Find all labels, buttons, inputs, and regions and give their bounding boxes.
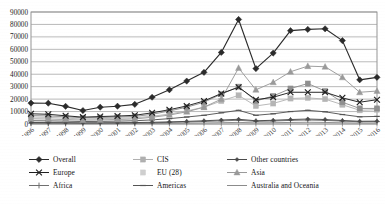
x-axis-tick-label: 1998 <box>55 126 71 136</box>
legend-swatch-dash-icon <box>132 181 154 190</box>
marker-square <box>323 97 328 102</box>
marker-square <box>236 93 241 98</box>
legend-item-eu-28-[interactable]: EU (28) <box>132 168 226 177</box>
y-axis-tick-label: 90000 <box>10 9 28 17</box>
marker-square <box>271 101 276 106</box>
marker-plus <box>36 183 42 189</box>
x-axis-tick-label: 2010 <box>262 126 278 136</box>
y-axis-tick-label: 50000 <box>10 58 28 66</box>
legend-label: Americas <box>157 181 186 190</box>
x-axis-tick-label: 2002 <box>124 126 140 136</box>
legend-item-asia[interactable]: Asia <box>226 168 368 177</box>
x-axis-tick-label: 1999 <box>72 126 88 136</box>
marker-square <box>305 81 310 86</box>
legend-item-cis[interactable]: CIS <box>132 155 226 164</box>
legend-swatch-diamond-icon <box>28 155 50 164</box>
legend-item-americas[interactable]: Americas <box>132 181 226 190</box>
chart-container: 0100002000030000400005000060000700008000… <box>0 0 385 204</box>
marker-square <box>374 106 379 111</box>
x-axis-tick-label: 1997 <box>37 126 53 136</box>
y-axis-tick-label: 20000 <box>10 96 28 104</box>
x-axis-tick-label: 2014 <box>331 126 347 136</box>
legend-swatch-line-only-icon <box>226 181 248 190</box>
x-axis-tick-label: 2016 <box>366 126 382 136</box>
x-axis-tick-label: 2008 <box>228 126 244 136</box>
marker-diamond <box>36 156 42 162</box>
legend-item-other-countries[interactable]: Other countries <box>226 155 368 164</box>
x-axis-tick-label: 2011 <box>280 126 296 136</box>
legend-label: Other countries <box>251 155 298 164</box>
legend-item-australia-and-oceania[interactable]: Australia and Oceania <box>226 181 368 190</box>
x-axis-tick-label: 2013 <box>314 126 330 136</box>
legend-item-africa[interactable]: Africa <box>28 181 132 190</box>
marker-square <box>288 96 293 101</box>
marker-square <box>253 103 258 108</box>
legend-label: Australia and Oceania <box>251 181 319 190</box>
x-axis-tick-label: 2006 <box>193 126 209 136</box>
legend-label: Africa <box>53 181 72 190</box>
x-axis-tick-label: 2001 <box>107 126 123 136</box>
legend-label: EU (28) <box>157 168 182 177</box>
legend-swatch-square-light-icon <box>132 155 154 164</box>
y-axis-tick-label: 70000 <box>10 33 28 41</box>
y-axis-tick-label: 10000 <box>10 108 28 116</box>
marker-square <box>140 170 145 175</box>
x-axis-tick-label: 2004 <box>158 126 174 136</box>
chart-legend: OverallCISOther countriesEuropeEU (28)As… <box>28 153 368 197</box>
plot-area: 0100002000030000400005000060000700008000… <box>0 0 385 136</box>
x-axis-tick-label: 2015 <box>349 126 365 136</box>
marker-square <box>357 106 362 111</box>
legend-item-europe[interactable]: Europe <box>28 168 132 177</box>
line-chart-svg: 0100002000030000400005000060000700008000… <box>0 0 385 136</box>
marker-square <box>140 157 145 162</box>
marker-diamond-small <box>235 157 239 161</box>
x-axis-tick-label: 2005 <box>176 126 192 136</box>
legend-swatch-plus-icon <box>28 181 50 190</box>
legend-label: Europe <box>53 168 75 177</box>
legend-label: CIS <box>157 155 169 164</box>
y-axis-tick-label: 40000 <box>10 71 28 79</box>
y-axis-tick-label: 60000 <box>10 46 28 54</box>
x-axis-tick-label: 1996 <box>20 126 36 136</box>
x-axis-tick-label: 2000 <box>89 126 105 136</box>
x-axis-tick-label: 2007 <box>210 126 226 136</box>
legend-swatch-cross-icon <box>28 168 50 177</box>
y-axis-tick-label: 30000 <box>10 83 28 91</box>
y-axis-tick-label: 80000 <box>10 21 28 29</box>
legend-label: Overall <box>53 155 76 164</box>
x-axis-tick-label: 2009 <box>245 126 261 136</box>
legend-swatch-square-faint-icon <box>132 168 154 177</box>
x-axis-tick-label: 2003 <box>141 126 157 136</box>
x-axis-tick-label: 2012 <box>297 126 313 136</box>
legend-label: Asia <box>251 168 265 177</box>
marker-square <box>305 95 310 100</box>
legend-swatch-triangle-icon <box>226 168 248 177</box>
legend-swatch-diamond-small-icon <box>226 155 248 164</box>
legend-item-overall[interactable]: Overall <box>28 155 132 164</box>
